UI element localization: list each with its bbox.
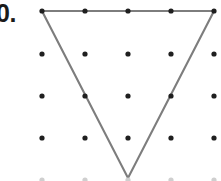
grid-dot <box>211 51 216 56</box>
grid-dot <box>39 135 44 140</box>
grid-dot <box>168 8 173 13</box>
grid-dot <box>82 8 87 13</box>
grid-dot <box>82 93 87 98</box>
figure-canvas: 0. <box>0 0 221 181</box>
grid-dot <box>82 177 87 181</box>
dot-grid-triangle-graphic <box>0 0 221 181</box>
grid-dot <box>168 93 173 98</box>
grid-dot <box>125 51 130 56</box>
grid-dot <box>211 8 216 13</box>
grid-dot <box>125 8 130 13</box>
grid-dot <box>168 135 173 140</box>
grid-dot <box>125 135 130 140</box>
grid-dot <box>211 177 216 181</box>
grid-dot <box>125 93 130 98</box>
grid-dot <box>39 177 44 181</box>
grid-dot <box>82 51 87 56</box>
grid-dot <box>125 177 130 181</box>
grid-dot <box>168 51 173 56</box>
grid-dot <box>39 93 44 98</box>
dot-grid-layer <box>39 8 216 181</box>
grid-dot <box>211 135 216 140</box>
grid-dot <box>39 8 44 13</box>
grid-dot <box>82 135 87 140</box>
grid-dot <box>39 51 44 56</box>
grid-dot <box>168 177 173 181</box>
grid-dot <box>211 93 216 98</box>
